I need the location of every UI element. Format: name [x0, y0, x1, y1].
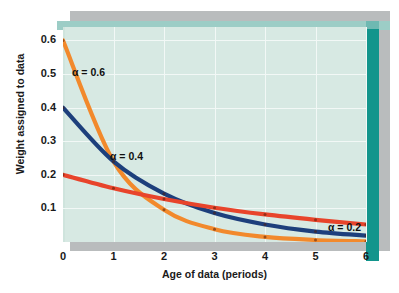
data-point-marker	[213, 212, 216, 215]
data-point-marker	[163, 208, 166, 211]
gridline-vertical	[366, 27, 367, 242]
data-point-marker	[314, 238, 317, 241]
data-point-marker	[314, 230, 317, 233]
x-tick-label: 3	[205, 250, 225, 262]
y-axis-title: Weight assigned to data	[14, 34, 26, 194]
data-point-marker	[112, 187, 115, 190]
data-point-marker	[213, 228, 216, 231]
panel-right-bevel-highlight	[366, 21, 379, 29]
series-line-alpha-0-4	[63, 108, 366, 236]
x-axis-title: Age of data (periods)	[63, 268, 366, 280]
data-point-marker	[163, 192, 166, 195]
y-tick-label: 0.5	[26, 67, 56, 79]
x-tick-label: 4	[255, 250, 275, 262]
data-point-marker	[264, 235, 267, 238]
data-point-marker	[213, 206, 216, 209]
data-point-marker	[314, 218, 317, 221]
plot-area	[63, 27, 366, 242]
data-point-marker	[264, 223, 267, 226]
chart-figure: 0.10.20.30.40.50.6 0123456 α = 0.6α = 0.…	[0, 0, 399, 293]
y-tick-label: 0.4	[26, 101, 56, 113]
data-point-marker	[264, 213, 267, 216]
x-tick-label: 1	[104, 250, 124, 262]
x-tick-label: 6	[356, 250, 376, 262]
y-tick-label: 0.1	[26, 201, 56, 213]
x-tick-label: 5	[306, 250, 326, 262]
y-tick-label: 0.3	[26, 134, 56, 146]
series-line-alpha-0-2	[63, 175, 366, 225]
y-tick-label: 0.6	[26, 33, 56, 45]
series-label: α = 0.4	[110, 150, 143, 162]
x-tick-label: 2	[154, 250, 174, 262]
x-tick-label: 0	[53, 250, 73, 262]
series-label: α = 0.2	[328, 221, 361, 233]
series-label: α = 0.6	[72, 66, 105, 78]
data-point-marker	[163, 198, 166, 201]
y-tick-label: 0.2	[26, 168, 56, 180]
panel-right-bevel	[366, 21, 379, 261]
